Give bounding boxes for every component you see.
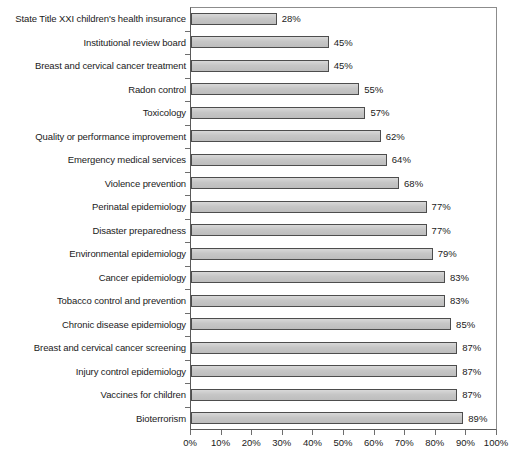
bar-value-label: 83% <box>450 272 469 283</box>
bar-value-label: 87% <box>462 342 481 353</box>
x-axis-tick-labels: 0%10%20%30%40%50%60%70%80%90%100% <box>0 437 529 451</box>
x-axis-tick <box>251 430 252 435</box>
category-label: Tobacco control and prevention <box>0 295 186 306</box>
bar <box>191 224 427 236</box>
x-axis-tick <box>404 430 405 435</box>
bar-row: State Title XXI children's health insura… <box>0 7 529 31</box>
x-axis-ticks <box>190 430 498 436</box>
bar <box>191 318 451 330</box>
x-axis-tick-label: 40% <box>303 437 322 448</box>
category-label: Perinatal epidemiology <box>0 201 186 212</box>
x-axis-tick-label: 100% <box>484 437 508 448</box>
horizontal-bar-chart: State Title XXI children's health insura… <box>0 0 529 463</box>
bar-value-label: 45% <box>334 37 353 48</box>
bar-value-label: 68% <box>404 178 423 189</box>
category-label: Quality or performance improvement <box>0 131 186 142</box>
bar-value-label: 28% <box>282 13 301 24</box>
bar-container: 77% <box>191 219 497 243</box>
bar-row: Quality or performance improvement62% <box>0 125 529 149</box>
category-label: Disaster preparedness <box>0 225 186 236</box>
x-axis-tick-label: 20% <box>242 437 261 448</box>
category-label: Chronic disease epidemiology <box>0 319 186 330</box>
x-axis-tick-label: 50% <box>333 437 352 448</box>
x-axis-tick <box>282 430 283 435</box>
x-axis-tick <box>435 430 436 435</box>
bar-value-label: 87% <box>462 366 481 377</box>
category-label: Bioterrorism <box>0 413 186 424</box>
x-axis-tick-label: 90% <box>456 437 475 448</box>
bar <box>191 154 387 166</box>
x-axis-tick <box>221 430 222 435</box>
category-label: Breast and cervical cancer treatment <box>0 60 186 71</box>
bar-container: 85% <box>191 313 497 337</box>
bar <box>191 389 457 401</box>
bar-row: Chronic disease epidemiology85% <box>0 313 529 337</box>
category-label: Environmental epidemiology <box>0 248 186 259</box>
bar-row: Perinatal epidemiology77% <box>0 195 529 219</box>
x-axis-tick-label: 30% <box>272 437 291 448</box>
bar-row: Bioterrorism89% <box>0 407 529 431</box>
category-label: Injury control epidemiology <box>0 366 186 377</box>
bar-container: 77% <box>191 195 497 219</box>
bar-value-label: 62% <box>386 131 405 142</box>
x-axis-tick <box>496 430 497 435</box>
bar-rows: State Title XXI children's health insura… <box>0 7 529 430</box>
category-label: Vaccines for children <box>0 389 186 400</box>
bar-value-label: 55% <box>364 84 383 95</box>
category-label: Cancer epidemiology <box>0 272 186 283</box>
x-axis-tick-label: 0% <box>183 437 197 448</box>
bar <box>191 248 433 260</box>
bar-container: 55% <box>191 78 497 102</box>
bar-container: 87% <box>191 383 497 407</box>
bar-value-label: 87% <box>462 389 481 400</box>
bar-container: 87% <box>191 336 497 360</box>
x-axis-tick-label: 80% <box>425 437 444 448</box>
bar-value-label: 64% <box>392 154 411 165</box>
bar-row: Breast and cervical cancer screening87% <box>0 336 529 360</box>
bar <box>191 60 329 72</box>
x-axis-tick-label: 10% <box>211 437 230 448</box>
bar <box>191 342 457 354</box>
bar-value-label: 77% <box>432 201 451 212</box>
bar-row: Emergency medical services64% <box>0 148 529 172</box>
bar-row: Institutional review board45% <box>0 31 529 55</box>
bar-value-label: 57% <box>370 107 389 118</box>
bar <box>191 130 381 142</box>
x-axis-tick-label: 60% <box>364 437 383 448</box>
bar-container: 83% <box>191 289 497 313</box>
bar-value-label: 79% <box>438 248 457 259</box>
category-label: Violence prevention <box>0 178 186 189</box>
x-axis-tick-label: 70% <box>395 437 414 448</box>
bar-container: 62% <box>191 125 497 149</box>
x-axis-tick <box>374 430 375 435</box>
bar-row: Environmental epidemiology79% <box>0 242 529 266</box>
bar-row: Disaster preparedness77% <box>0 219 529 243</box>
bar <box>191 365 457 377</box>
bar-row: Cancer epidemiology83% <box>0 266 529 290</box>
bar-row: Tobacco control and prevention83% <box>0 289 529 313</box>
bar-row: Toxicology57% <box>0 101 529 125</box>
bar-container: 57% <box>191 101 497 125</box>
bar <box>191 201 427 213</box>
bar-container: 79% <box>191 242 497 266</box>
bar-value-label: 83% <box>450 295 469 306</box>
bar-value-label: 89% <box>468 413 487 424</box>
bar <box>191 271 445 283</box>
bar-container: 45% <box>191 31 497 55</box>
bar-container: 87% <box>191 360 497 384</box>
bar <box>191 13 277 25</box>
bar-row: Vaccines for children87% <box>0 383 529 407</box>
bar-container: 68% <box>191 172 497 196</box>
bar-row: Violence prevention68% <box>0 172 529 196</box>
bar <box>191 107 365 119</box>
bar-row: Radon control55% <box>0 78 529 102</box>
bar-container: 64% <box>191 148 497 172</box>
bar-container: 83% <box>191 266 497 290</box>
bar <box>191 83 359 95</box>
bar-row: Breast and cervical cancer treatment45% <box>0 54 529 78</box>
bar-value-label: 85% <box>456 319 475 330</box>
category-label: Breast and cervical cancer screening <box>0 342 186 353</box>
bar <box>191 36 329 48</box>
category-label: Toxicology <box>0 107 186 118</box>
bar-container: 45% <box>191 54 497 78</box>
